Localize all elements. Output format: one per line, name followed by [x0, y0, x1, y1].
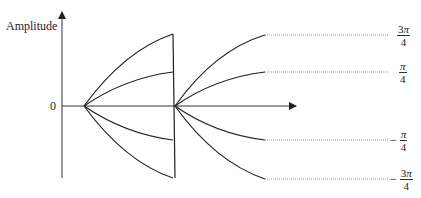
phase-sign: − [390, 133, 397, 148]
origin-label: 0 [50, 100, 56, 112]
second-fan [175, 35, 265, 179]
phase-label-top: 3π 4 [394, 23, 410, 48]
amplitude-phase-diagram [0, 0, 421, 198]
fan2-curve-bottom [175, 106, 265, 179]
y-axis-label: Amplitude [6, 20, 57, 32]
fan2-curve-top [175, 35, 265, 106]
phase-label-bottom: − 3π 4 [390, 167, 413, 192]
phase-label-lower: − π 4 [390, 128, 407, 153]
phase-sign: − [390, 172, 397, 187]
fan1-curve-top [84, 34, 173, 106]
fan1-curve-bottom [84, 106, 173, 178]
phase-label-upper: π 4 [396, 60, 407, 85]
dotted-guides [265, 35, 388, 179]
